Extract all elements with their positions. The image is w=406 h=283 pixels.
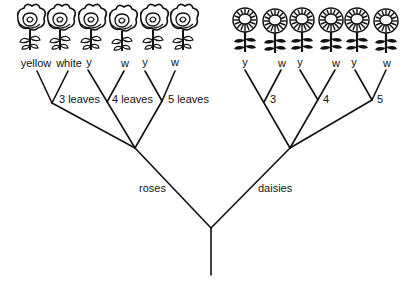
daisies-5-line	[290, 100, 372, 148]
rose-icon	[110, 5, 138, 51]
rose-icon	[171, 4, 199, 50]
daisy-icon	[319, 8, 343, 52]
leaf-label-daisy-3-w: w	[278, 57, 286, 69]
leaf-label-rose-4-w: w	[121, 57, 129, 69]
leaf-label-rose-3-yellow: yellow	[21, 57, 52, 69]
branch-label-daisies: daisies	[258, 182, 292, 194]
leaf-label-rose-4-y: y	[86, 56, 92, 68]
group-label-rose-4-leaves: 4 leaves	[112, 93, 153, 105]
daisy-icons	[233, 8, 398, 53]
rose-icon	[141, 4, 169, 50]
group-label-daisy-3: 3	[270, 93, 276, 105]
daisy-icon	[374, 9, 398, 53]
leaf-label-rose-3-white: white	[56, 57, 82, 69]
leaf-label-daisy-4-w: w	[332, 57, 340, 69]
daisy-icon	[233, 8, 257, 52]
rose-icon	[18, 4, 46, 50]
group-label-rose-3-leaves: 3 leaves	[59, 93, 100, 105]
group-label-daisy-5: 5	[377, 93, 383, 105]
daisy-icon	[263, 9, 287, 53]
daisies-3-line	[245, 70, 290, 148]
daisy-icon	[345, 8, 369, 52]
daisies-4-line	[290, 70, 335, 148]
leaf-label-daisy-3-y: y	[242, 56, 248, 68]
rose-icon	[48, 4, 76, 50]
leaf-label-daisy-5-w: w	[383, 57, 391, 69]
leaf-label-rose-5-y: y	[142, 56, 148, 68]
daisy-icon	[290, 8, 314, 52]
rose-icons	[18, 4, 199, 51]
roses-3-leaves-line	[52, 103, 135, 148]
rose-icon	[79, 4, 107, 50]
leaf-label-daisy-4-y: y	[297, 56, 303, 68]
leaf-label-rose-5-w: w	[171, 56, 179, 68]
branch-label-roses: roses	[139, 182, 166, 194]
group-label-daisy-4: 4	[323, 93, 329, 105]
group-label-rose-5-leaves: 5 leaves	[168, 93, 209, 105]
roses-4-leaves-line	[88, 70, 135, 148]
roses-5-leaves-line	[135, 101, 162, 148]
tree-diagram	[0, 0, 406, 283]
leaf-label-daisy-5-y: y	[351, 56, 357, 68]
